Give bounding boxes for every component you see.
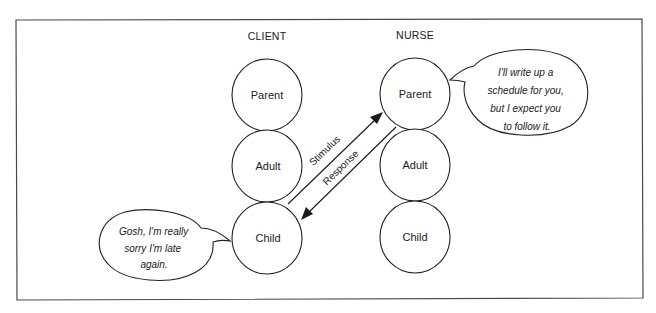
client-child-label: Child xyxy=(255,232,280,244)
nurse-adult-state: Adult xyxy=(380,129,450,201)
nurse-parent-state: Parent xyxy=(380,58,450,130)
client-bubble-line-3: again. xyxy=(140,259,167,270)
nurse-bubble-line-2: schedule for you, xyxy=(488,85,564,96)
client-ego-states: Parent Adult Child xyxy=(232,59,302,274)
nurse-ego-states: Parent Adult Child xyxy=(380,58,450,273)
client-column-title: CLIENT xyxy=(248,30,287,42)
client-child-state: Child xyxy=(232,202,302,274)
client-bubble-line-2: sorry I'm late xyxy=(124,243,181,254)
nurse-child-label: Child xyxy=(402,231,427,243)
nurse-adult-label: Adult xyxy=(402,159,427,171)
nurse-bubble-line-3: but I expect you xyxy=(490,103,561,114)
nurse-child-state: Child xyxy=(380,201,450,273)
nurse-speech-bubble: I'll write up a schedule for you, but I … xyxy=(450,50,588,136)
nurse-column-title: NURSE xyxy=(396,29,434,41)
nurse-parent-label: Parent xyxy=(399,88,431,100)
nurse-bubble-line-1: I'll write up a xyxy=(498,67,554,78)
client-parent-state: Parent xyxy=(232,59,302,131)
response-arrowhead-icon xyxy=(301,207,313,220)
client-speech-bubble: Gosh, I'm really sorry I'm late again. xyxy=(99,210,230,281)
client-adult-state: Adult xyxy=(232,130,302,202)
transaction-diagram: CLIENT NURSE Parent Adult Child Parent A… xyxy=(0,0,656,313)
stimulus-transaction: Stimulus xyxy=(288,112,383,204)
client-adult-label: Adult xyxy=(255,160,280,172)
nurse-bubble-line-4: to follow it. xyxy=(503,121,550,132)
client-bubble-line-1: Gosh, I'm really xyxy=(119,226,189,237)
client-parent-label: Parent xyxy=(251,89,283,101)
